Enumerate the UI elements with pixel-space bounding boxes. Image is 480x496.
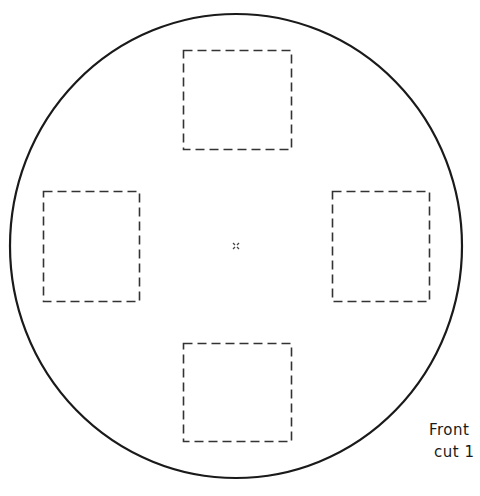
cutout-right — [333, 192, 430, 302]
center-mark-icon — [233, 243, 239, 249]
cutout-top — [184, 51, 292, 150]
cutout-bottom — [184, 344, 292, 442]
label-front: Front — [429, 421, 469, 439]
label-cut: cut 1 — [434, 443, 474, 461]
template-drawing — [0, 0, 480, 496]
outer-circle — [10, 14, 462, 478]
cutout-left — [44, 192, 140, 302]
